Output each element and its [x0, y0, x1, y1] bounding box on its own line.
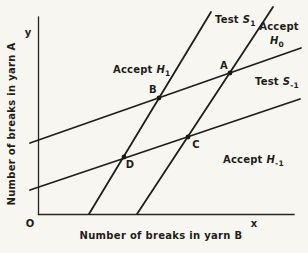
- label-test-s-neg1-subscript: -1: [290, 81, 299, 90]
- label-accept-h1-word: Accept: [113, 64, 153, 75]
- label-accept-h1: AcceptH1: [113, 64, 171, 78]
- x-axis-title: Number of breaks in yarn B: [80, 230, 243, 241]
- label-accept-h0-word: Accept: [259, 21, 299, 32]
- point-a-label: A: [220, 60, 228, 71]
- point-a-marker: [228, 71, 233, 76]
- lower-accept-h-minus1-boundary-line: [30, 99, 300, 190]
- upper-accept-h0-boundary-line: [30, 48, 301, 143]
- label-test-s1-word: Test: [215, 14, 239, 25]
- label-test-s-neg1-symbol: S: [283, 76, 290, 87]
- label-accept-h-neg1-word: Accept: [223, 154, 263, 165]
- left-test-s1-boundary-line: [89, 12, 211, 214]
- point-c-marker: [186, 135, 191, 140]
- sequential-test-diagram: A B C D TestS1 Accept H0 AcceptH1 TestS-…: [0, 0, 308, 253]
- label-test-s1-symbol: S: [243, 14, 250, 25]
- label-accept-h1-subscript: 1: [165, 69, 170, 78]
- label-accept-h-neg1-subscript: -1: [275, 159, 284, 168]
- right-test-s1-boundary-line: [137, 7, 273, 214]
- y-axis-title: Number of breaks in yarn A: [6, 42, 17, 205]
- x-axis-symbol: x: [251, 218, 258, 229]
- label-test-s1: TestS1: [215, 14, 256, 28]
- point-d-label: D: [126, 159, 135, 170]
- label-accept-h0-symbol-group: H0: [270, 35, 284, 49]
- label-test-s-neg1: TestS-1: [255, 76, 299, 90]
- point-c-label: C: [192, 139, 200, 150]
- label-accept-h0-subscript: 0: [279, 40, 284, 49]
- origin-label: O: [26, 218, 35, 229]
- point-b-marker: [157, 96, 162, 101]
- label-test-s1-subscript: 1: [250, 19, 255, 28]
- label-test-s-neg1-word: Test: [255, 76, 279, 87]
- point-b-label: B: [149, 84, 157, 95]
- y-axis-symbol: y: [25, 27, 32, 38]
- diagram-canvas: A B C D TestS1 Accept H0 AcceptH1 TestS-…: [0, 0, 308, 253]
- label-accept-h-neg1: AcceptH-1: [223, 154, 284, 168]
